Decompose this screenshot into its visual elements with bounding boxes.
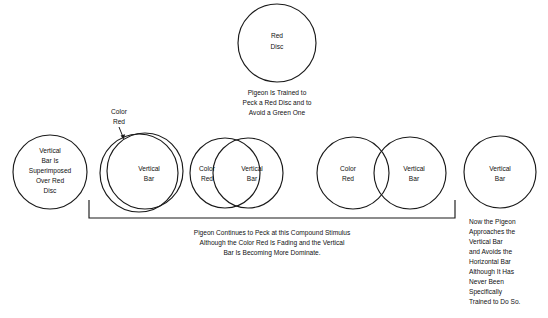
right-caption-line7: Never Been [469,278,504,285]
stage-2-color-red-circle [100,134,178,212]
stage-5-vertical-bar-label-line2: Bar [495,175,506,182]
stage-1-label-line4: Over Red [36,177,65,184]
stage-5-vertical-bar-label-line1: Vertical [489,165,511,172]
right-caption-line3: Vertical Bar [469,238,504,245]
top-caption-line1: Pigeon Is Trained to [248,89,307,97]
stage-4-vertical-bar-label-line1: Vertical [403,165,425,172]
right-caption-line9: Trained to Do So. [469,298,521,305]
stage-3-color-red-label-line1: Color [199,165,216,172]
bottom-caption-line3: Bar Is Becoming More Dominate. [223,249,320,257]
stage-2-color-red-callout-line2: Red [113,118,125,125]
stage-1-label-line5: Disc [44,187,58,194]
stage-4-color-red-label-line2: Red [342,175,354,182]
stage-4-vertical-bar-circle [374,137,446,209]
right-caption-line4: and Avoids the [469,248,512,255]
right-caption-line8: Specifically [469,288,503,296]
stage-2-vertical-bar-label-line1: Vertical [138,165,160,172]
stage-3-group: Color Red Vertical Bar [190,138,283,208]
red-disc-label-line1: Red [271,32,283,39]
right-caption-line2: Approaches the [469,228,516,236]
stage-2-group: Vertical Bar Color Red [100,108,183,212]
stage-3-vertical-bar-label-line2: Bar [247,175,258,182]
stage-3-vertical-bar-label-line1: Vertical [241,165,263,172]
stage-4-color-red-label-line1: Color [340,165,357,172]
stage-5-vertical-bar-circle [464,136,536,208]
bottom-caption-line2: Although the Color Red Is Fading and the… [200,239,345,247]
top-caption-line2: Peck a Red Disc and to [243,99,312,106]
stage-5-group: Vertical Bar [464,136,536,208]
stage-1-label-line3: Superimposed [29,167,72,175]
stage-4-color-red-circle [317,137,389,209]
top-caption-line3: Avoid a Green One [249,109,306,116]
stage-4-vertical-bar-label-line2: Bar [409,175,420,182]
stage-2-color-red-callout-line1: Color [111,108,128,115]
stage-3-vertical-bar-circle [213,138,283,208]
stage-3-color-red-label-line2: Red [201,175,213,182]
stage-1-label-line2: Bar Is [41,157,59,164]
red-disc-label-line2: Disc [271,43,285,50]
stimulus-generalization-diagram: Red Disc Pigeon Is Trained to Peck a Red… [0,0,548,318]
bottom-caption-line1: Pigeon Continues to Peck at this Compoun… [194,229,351,237]
right-caption-line5: Horizontal Bar [469,258,512,265]
stage-1-group: Vertical Bar Is Superimposed Over Red Di… [13,135,87,209]
stage-2-vertical-bar-label-line2: Bar [144,175,155,182]
stage-1-label-line1: Vertical [39,147,61,154]
right-caption-line6: Although It Has [469,268,515,276]
stage-4-group: Color Red Vertical Bar [317,137,446,209]
right-caption-line1: Now the Pigeon [469,218,516,226]
stage-3-color-red-circle [190,138,260,208]
